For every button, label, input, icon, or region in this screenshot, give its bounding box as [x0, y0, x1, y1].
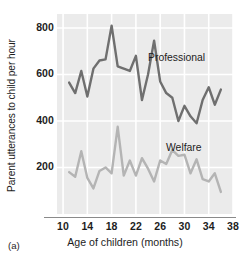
series-label-welfare: Welfare — [166, 142, 202, 153]
plot-area — [57, 14, 233, 214]
x-tick-26: 26 — [154, 220, 166, 232]
x-tick-30: 30 — [178, 220, 190, 232]
x-tick-34: 34 — [203, 220, 215, 232]
y-tick-600: 600 — [20, 67, 54, 79]
x-axis-line — [44, 217, 236, 218]
y-axis-tick-labels: 200400600800 — [20, 0, 54, 220]
x-axis-tick-labels: 1014182226303438 — [44, 220, 236, 234]
y-axis-title-container: Parent utterances to child per hour — [0, 0, 22, 230]
x-tick-14: 14 — [81, 220, 93, 232]
x-tick-10: 10 — [57, 220, 69, 232]
figure-panel-a: Parent utterances to child per hour 2004… — [0, 0, 250, 263]
series-line-welfare — [69, 127, 221, 192]
x-axis-title: Age of children (months) — [0, 236, 250, 248]
y-tick-400: 400 — [20, 114, 54, 126]
y-axis-title: Parent utterances to child per hour — [6, 39, 17, 192]
x-tick-22: 22 — [130, 220, 142, 232]
y-tick-200: 200 — [20, 160, 54, 172]
y-tick-800: 800 — [20, 21, 54, 33]
x-tick-38: 38 — [227, 220, 239, 232]
series-label-professional: Professional — [148, 52, 205, 63]
x-tick-18: 18 — [106, 220, 118, 232]
gridlines — [57, 14, 233, 214]
panel-identifier: (a) — [8, 240, 20, 251]
